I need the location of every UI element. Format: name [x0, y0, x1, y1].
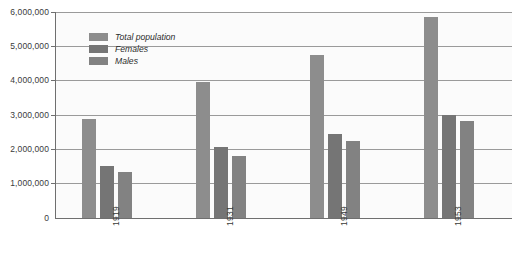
bar-chart: 01,000,0002,000,0003,000,0004,000,0005,0…: [0, 0, 524, 257]
bar: [196, 82, 210, 218]
y-axis-tick-label: 4,000,000: [0, 75, 49, 85]
y-axis-tick-label: 1,000,000: [0, 178, 49, 188]
bar: [424, 17, 438, 218]
y-axis-tick-label: 6,000,000: [0, 7, 49, 17]
legend-swatch-females: [89, 45, 108, 53]
chart-legend: Total populationFemalesMales: [89, 31, 175, 67]
y-axis-tick-label: 0: [0, 213, 49, 223]
legend-item: Males: [89, 55, 175, 66]
legend-swatch-males: [89, 57, 108, 65]
bar: [82, 119, 96, 218]
x-axis-tick-label: 1931: [225, 206, 235, 226]
bar: [460, 121, 474, 218]
y-axis-tick-label: 2,000,000: [0, 144, 49, 154]
legend-label: Males: [115, 56, 138, 66]
x-axis-tick-label: 1919: [111, 206, 121, 226]
legend-item: Total population: [89, 31, 175, 42]
y-axis-tick-label: 5,000,000: [0, 41, 49, 51]
x-axis-tick-label: 1953: [453, 206, 463, 226]
legend-label: Total population: [115, 32, 175, 42]
bar: [310, 55, 324, 218]
gridline: [56, 12, 512, 13]
legend-label: Females: [115, 44, 148, 54]
legend-item: Females: [89, 43, 175, 54]
x-axis-tick-label: 1949: [339, 206, 349, 226]
y-axis-tick-label: 3,000,000: [0, 110, 49, 120]
legend-swatch-total: [89, 33, 108, 41]
bar: [442, 115, 456, 218]
gridline: [56, 80, 512, 81]
